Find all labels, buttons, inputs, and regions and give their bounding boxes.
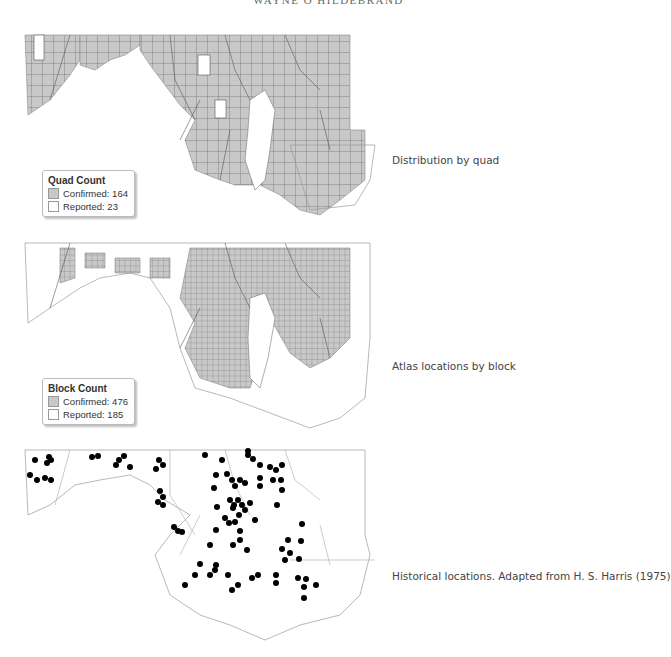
- legend-item-confirmed: Confirmed: 164: [48, 187, 128, 200]
- confirmed-swatch: [48, 188, 59, 199]
- running-head: WAYNE O HILDEBRAND: [0, 0, 657, 6]
- quad-map-panel: Quad Count Confirmed: 164 Reported: 23: [20, 30, 380, 230]
- block-count-legend: Block Count Confirmed: 476 Reported: 185: [42, 378, 135, 425]
- confirmed-swatch: [48, 396, 59, 407]
- legend-title: Block Count: [48, 382, 128, 395]
- legend-title: Quad Count: [48, 174, 128, 187]
- historical-locations-map: [20, 445, 380, 655]
- reported-swatch: [48, 201, 59, 212]
- legend-label: Confirmed: 164: [63, 187, 128, 200]
- legend-label: Reported: 23: [63, 200, 118, 213]
- legend-item-reported: Reported: 185: [48, 408, 128, 421]
- historical-map-panel: [20, 445, 380, 655]
- historical-dots: [27, 448, 319, 601]
- legend-item-reported: Reported: 23: [48, 200, 128, 213]
- legend-label: Confirmed: 476: [63, 395, 128, 408]
- block-map-panel: Block Count Confirmed: 476 Reported: 185: [20, 238, 380, 438]
- legend-label: Reported: 185: [63, 408, 123, 421]
- caption-historical: Historical locations. Adapted from H. S.…: [392, 570, 671, 582]
- legend-item-confirmed: Confirmed: 476: [48, 395, 128, 408]
- caption-quad: Distribution by quad: [392, 154, 499, 166]
- reported-swatch: [48, 409, 59, 420]
- quad-count-legend: Quad Count Confirmed: 164 Reported: 23: [42, 170, 135, 217]
- caption-block: Atlas locations by block: [392, 360, 516, 372]
